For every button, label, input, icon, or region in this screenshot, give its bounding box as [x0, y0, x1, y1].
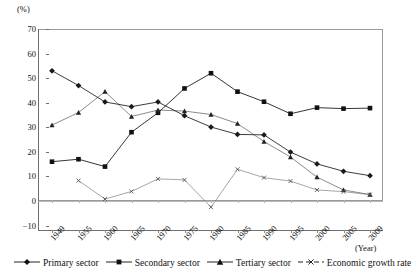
y-tick-label: 30 — [14, 123, 36, 131]
y-tick-label: 50 — [14, 74, 36, 82]
chart-legend: Primary sectorSecondary sectorTertiary s… — [14, 255, 389, 271]
legend-item[interactable]: Economic growth rate — [298, 257, 416, 269]
triangle-marker — [207, 257, 233, 269]
legend-label: Tertiary sector — [236, 258, 291, 268]
y-tick-mark — [46, 78, 49, 79]
x-axis-unit-label: (Year) — [355, 243, 376, 253]
plot-area — [38, 29, 383, 201]
x-marker — [298, 257, 324, 269]
x-tick-label: 2009 — [366, 223, 385, 242]
y-tick-label: 20 — [14, 148, 36, 156]
diamond-marker — [14, 257, 40, 269]
x-tick-label: 1985 — [234, 223, 253, 242]
x-tick-label: 1980 — [207, 223, 226, 242]
y-axis-line — [38, 29, 39, 230]
y-tick-label: −10 — [14, 222, 36, 230]
square-marker — [106, 257, 132, 269]
x-tick-label: 2005 — [340, 223, 359, 242]
x-tick-label: 1990 — [260, 223, 279, 242]
legend-item[interactable]: Primary sector — [14, 257, 106, 269]
y-tick-mark — [46, 176, 49, 177]
legend-item[interactable]: Secondary sector — [106, 257, 207, 269]
x-tick-label: 2000 — [313, 223, 332, 242]
y-axis-ticks: 706050403020100−10 — [10, 0, 36, 273]
x-tick-label: 1970 — [154, 223, 173, 242]
y-tick-mark — [46, 226, 49, 227]
legend-label: Primary sector — [43, 258, 99, 268]
x-tick-label: 1965 — [128, 223, 147, 242]
legend-label: Secondary sector — [135, 258, 200, 268]
x-tick-label: 1949 — [48, 223, 67, 242]
y-tick-mark — [46, 127, 49, 128]
y-tick-mark — [46, 103, 49, 104]
y-tick-label: 60 — [14, 50, 36, 58]
zero-gridline — [38, 201, 383, 202]
y-tick-mark — [46, 29, 49, 30]
legend-item[interactable]: Tertiary sector — [207, 257, 298, 269]
x-tick-label: 1955 — [75, 223, 94, 242]
x-tick-label: 1960 — [101, 223, 120, 242]
y-tick-mark — [46, 152, 49, 153]
legend-label: Economic growth rate — [327, 258, 411, 268]
x-tick-label: 1975 — [181, 223, 200, 242]
y-tick-label: 70 — [14, 25, 36, 33]
y-tick-label: 0 — [14, 197, 36, 205]
x-tick-label: 1995 — [287, 223, 306, 242]
y-tick-label: 40 — [14, 99, 36, 107]
y-tick-mark — [46, 54, 49, 55]
y-tick-label: 10 — [14, 172, 36, 180]
